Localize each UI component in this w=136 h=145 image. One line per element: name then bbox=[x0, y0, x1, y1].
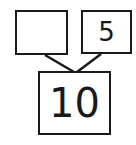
whole-box: 10 bbox=[38, 71, 111, 135]
part-left-box[interactable] bbox=[15, 10, 68, 55]
part-right-box: 5 bbox=[81, 10, 132, 54]
